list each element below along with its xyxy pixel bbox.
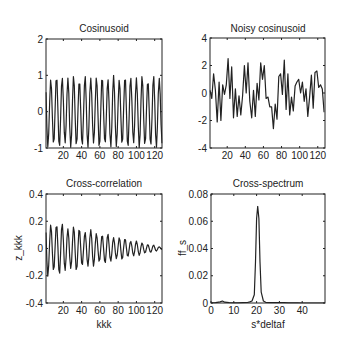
y-tick-label: 0.02 — [189, 270, 209, 281]
x-tick-label: 80 — [276, 150, 288, 161]
y-tick-label: 0 — [201, 88, 207, 99]
x-tick-label: 100 — [291, 150, 308, 161]
subplot-cross-correlation: Cross-correlation kkk z_kkk 204060801001… — [13, 178, 163, 330]
y-tick-label: 0.04 — [189, 243, 209, 254]
x-tick-label: 60 — [94, 150, 106, 161]
y-tick-label: 0.2 — [29, 216, 43, 227]
y-tick-label: 4 — [201, 33, 207, 44]
x-tick-label: 120 — [146, 305, 163, 316]
x-tick-label: 40 — [76, 305, 88, 316]
y-tick-label: 1 — [37, 70, 43, 81]
x-tick-label: 60 — [94, 305, 106, 316]
x-axis-label: kkk — [97, 319, 113, 330]
axes-box — [210, 38, 325, 148]
y-tick-label: 2 — [201, 60, 207, 71]
y-tick-label: -0.2 — [26, 270, 44, 281]
y-tick-label: 0 — [37, 106, 43, 117]
x-tick-label: 20 — [251, 305, 263, 316]
y-tick-label: 0.06 — [189, 216, 209, 227]
x-tick-label: 120 — [309, 150, 326, 161]
x-tick-label: 0 — [208, 305, 214, 316]
x-tick-label: 80 — [113, 150, 125, 161]
y-tick-label: -1 — [34, 143, 43, 154]
x-tick-label: 40 — [297, 305, 309, 316]
subplot-noisy-cosinusoid: Noisy cosinusoid 20406080100120-4-2024 — [198, 23, 326, 161]
x-tick-label: 80 — [113, 305, 125, 316]
figure-canvas: Cosinusoid 20406080100120-1012 Noisy cos… — [0, 0, 342, 351]
subplot-cosinusoid: Cosinusoid 20406080100120-1012 — [34, 23, 163, 161]
subplot-title: Cross-correlation — [66, 178, 142, 189]
y-axis-label: ff_s — [177, 240, 188, 256]
subplot-title: Cosinusoid — [79, 23, 128, 34]
x-tick-label: 20 — [222, 150, 234, 161]
y-tick-label: 2 — [37, 34, 43, 45]
y-tick-label: 0.08 — [189, 189, 209, 200]
subplot-cross-spectrum: Cross-spectrum s*deltaf ff_s 01020304000… — [177, 178, 325, 330]
y-tick-label: 0.4 — [29, 189, 43, 200]
x-tick-label: 40 — [76, 150, 88, 161]
x-tick-label: 120 — [146, 150, 163, 161]
y-axis-label: z_kkk — [13, 234, 24, 261]
y-tick-label: 0 — [202, 298, 208, 309]
x-tick-label: 60 — [258, 150, 270, 161]
y-tick-label: 0 — [37, 243, 43, 254]
subplot-title: Noisy cosinusoid — [230, 23, 305, 34]
x-tick-label: 20 — [58, 305, 70, 316]
x-tick-label: 10 — [228, 305, 240, 316]
y-tick-label: -0.4 — [26, 298, 44, 309]
x-axis-label: s*deltaf — [251, 319, 285, 330]
x-tick-label: 100 — [128, 150, 145, 161]
x-tick-label: 100 — [128, 305, 145, 316]
x-tick-label: 30 — [274, 305, 286, 316]
subplot-title: Cross-spectrum — [233, 178, 304, 189]
y-tick-label: -2 — [198, 115, 207, 126]
y-tick-label: -4 — [198, 143, 207, 154]
axes-box — [211, 194, 325, 303]
x-tick-label: 20 — [58, 150, 70, 161]
x-tick-label: 40 — [240, 150, 252, 161]
